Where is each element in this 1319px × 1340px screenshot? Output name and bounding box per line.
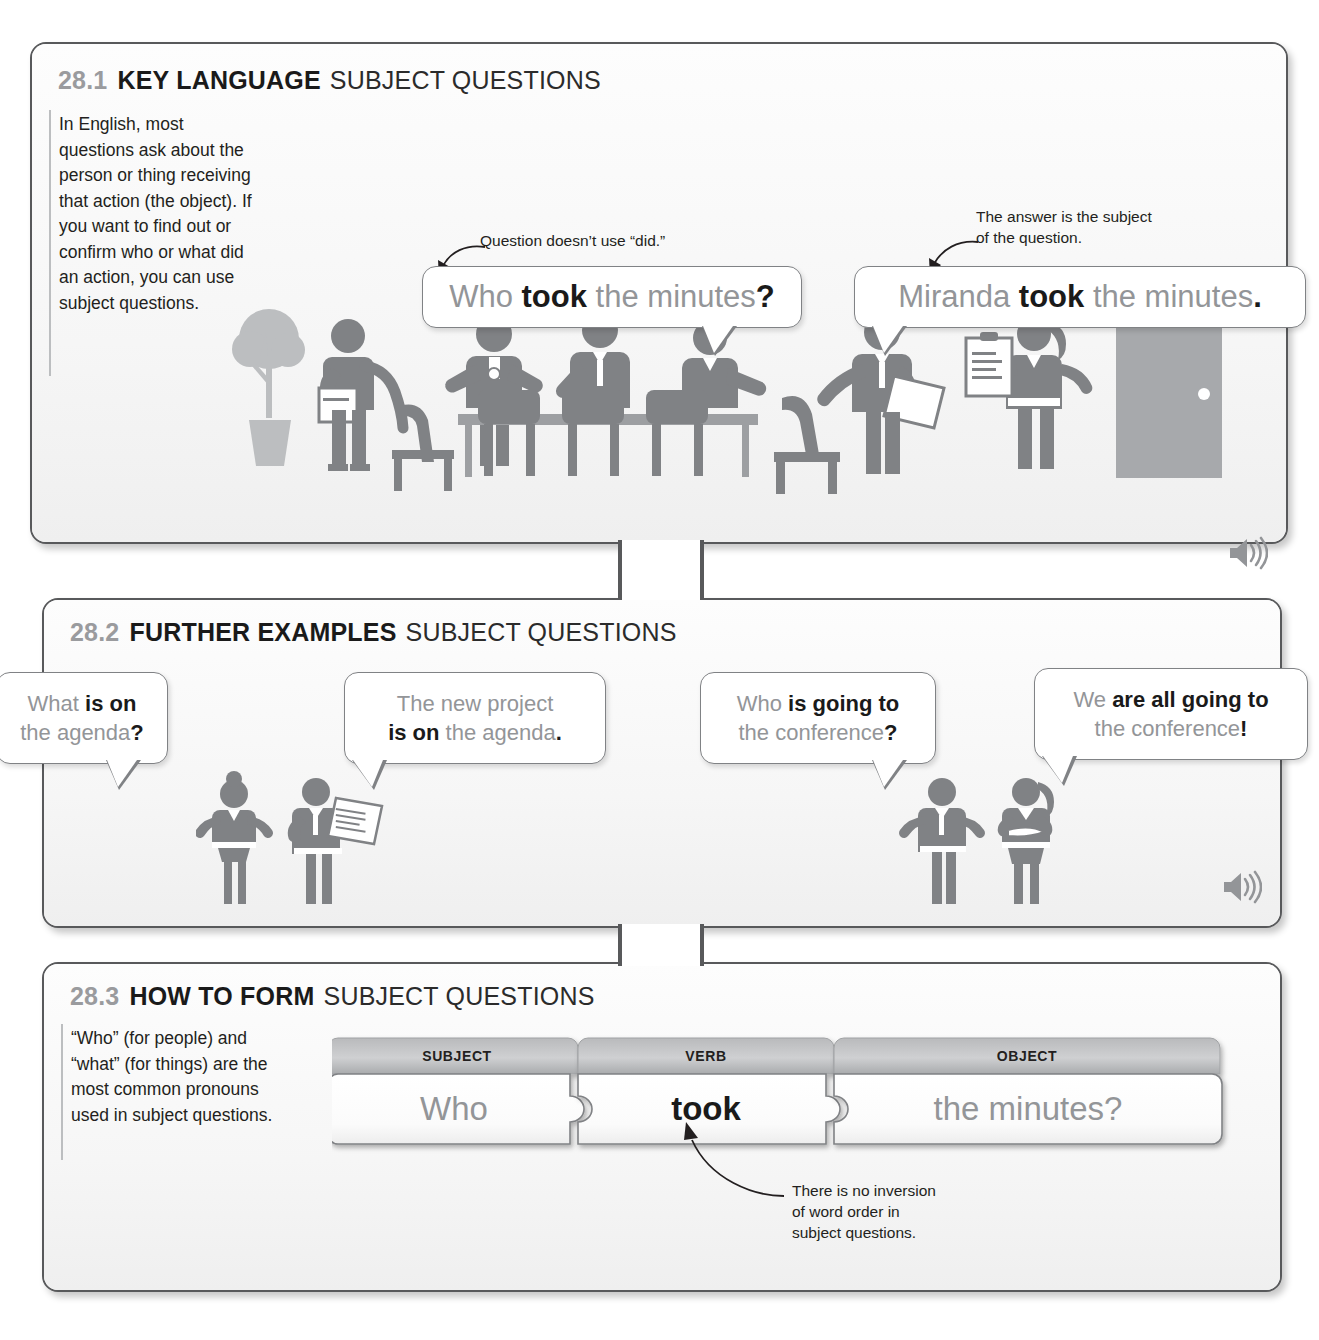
section-number: 28.1 [58, 66, 107, 94]
bubble-tail-fill [1043, 756, 1073, 783]
callout-arrow-inversion-icon [662, 1114, 792, 1204]
bubble-tail-fill [107, 760, 137, 787]
section-heading-28-3: 28.3HOW TO FORMSUBJECT QUESTIONS [70, 982, 595, 1011]
speech-bubble-who-conference: Who is going to the conference? [700, 672, 936, 764]
bubble-text: Who is going to the conference? [737, 689, 900, 747]
grammar-reference-page: 28.1KEY LANGUAGESUBJECT QUESTIONS In Eng… [0, 0, 1319, 1340]
speech-bubble-we-conference: We are all going to the conference! [1034, 668, 1308, 760]
speaker-icon[interactable] [1228, 536, 1268, 570]
section-title-strong: HOW TO FORM [129, 982, 314, 1010]
callout-line-2: of the question. [976, 227, 1152, 248]
section-panel-28-3: 28.3HOW TO FORMSUBJECT QUESTIONS “Who” (… [42, 962, 1282, 1292]
speech-bubble-miranda-took: Miranda took the minutes. [854, 266, 1306, 328]
section-body-28-1: In English, most questions ask about the… [59, 112, 255, 316]
panel-connector-1 [618, 540, 622, 600]
callout-line-1: There is no inversion [792, 1180, 936, 1201]
section-title-light: SUBJECT QUESTIONS [330, 66, 601, 94]
panel-connector-3 [618, 924, 622, 966]
bubble-text: The new project is on the agenda. [388, 689, 562, 747]
section-title-light: SUBJECT QUESTIONS [406, 618, 677, 646]
panel-gap-mask-1 [620, 540, 700, 600]
panel-connector-4 [700, 924, 704, 966]
bubble-tail-fill [703, 326, 733, 353]
bubble-text: Miranda took the minutes. [898, 279, 1262, 315]
callout-line-3: subject questions. [792, 1222, 936, 1243]
bubble-tail-fill [873, 326, 903, 353]
body-rule [49, 110, 51, 376]
bubble-tail-fill [353, 760, 383, 787]
panel-connector-2 [700, 540, 704, 600]
speech-bubble-new-project: The new project is on the agenda. [344, 672, 606, 764]
section-number: 28.3 [70, 982, 119, 1010]
bubble-text: What is on the agenda? [20, 689, 144, 747]
body-rule [61, 1024, 63, 1160]
section-panel-28-2: 28.2FURTHER EXAMPLESSUBJECT QUESTIONS [42, 598, 1282, 928]
speech-bubble-what-agenda: What is on the agenda? [0, 672, 168, 764]
callout-question-did: Question doesn’t use “did.” [480, 230, 665, 251]
section-body-28-3: “Who” (for people) and “what” (for thing… [71, 1026, 285, 1128]
callout-no-inversion: There is no inversion of word order in s… [792, 1180, 936, 1243]
section-heading-28-1: 28.1KEY LANGUAGESUBJECT QUESTIONS [58, 66, 601, 95]
bubble-text: We are all going to the conference! [1073, 685, 1268, 743]
section-title-strong: FURTHER EXAMPLES [129, 618, 396, 646]
bubble-text: Who took the minutes? [449, 279, 775, 315]
section-heading-28-2: 28.2FURTHER EXAMPLESSUBJECT QUESTIONS [70, 618, 677, 647]
panel-gap-mask-2 [620, 924, 700, 966]
section-panel-28-1: 28.1KEY LANGUAGESUBJECT QUESTIONS In Eng… [30, 42, 1288, 544]
section-title-light: SUBJECT QUESTIONS [324, 982, 595, 1010]
illustration-pair-right [894, 768, 1084, 908]
speaker-icon[interactable] [1222, 870, 1262, 904]
section-title-strong: KEY LANGUAGE [117, 66, 320, 94]
callout-answer-subject: The answer is the subject of the questio… [976, 206, 1152, 248]
callout-line-2: of word order in [792, 1201, 936, 1222]
callout-line-1: The answer is the subject [976, 206, 1152, 227]
speech-bubble-who-took: Who took the minutes? [422, 266, 802, 328]
section-number: 28.2 [70, 618, 119, 646]
bubble-tail-fill [873, 760, 903, 787]
